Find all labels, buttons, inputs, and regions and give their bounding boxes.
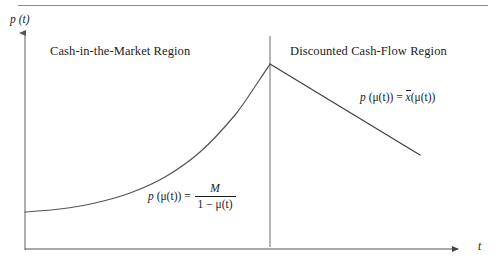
formula-discounted-cash-flow: p (μ(t)) = x(μ(t)) xyxy=(360,91,435,104)
plot-canvas xyxy=(0,0,503,274)
y-axis-label-text: p (t) xyxy=(10,13,29,25)
y-axis-label: p (t) xyxy=(10,13,29,26)
formula-left-den-mu: μ(t) xyxy=(216,198,233,210)
formula-left-denominator: 1 − μ(t) xyxy=(195,198,236,211)
formula-left-numerator: M xyxy=(195,182,236,195)
x-axis-label-text: t xyxy=(478,240,481,252)
figure-root: p (t) t Cash-in-the-Market Region Discou… xyxy=(0,0,503,274)
x-axis-label: t xyxy=(478,240,481,253)
formula-right-xbar: x xyxy=(406,91,411,104)
formula-right-arg: (μ(t)) xyxy=(369,91,394,103)
discounted-cash-flow-line xyxy=(270,64,420,155)
fraction-bar-icon xyxy=(195,196,236,197)
formula-right-rhs-arg: (μ(t)) xyxy=(411,91,436,103)
formula-cash-in-the-market: p (μ(t)) = M1 − μ(t) xyxy=(148,183,237,212)
formula-left-fraction: M1 − μ(t) xyxy=(195,182,236,211)
formula-left-den-minus: − xyxy=(206,198,213,210)
formula-left-arg: (μ(t)) xyxy=(157,190,182,202)
region-label-discounted-cash-flow: Discounted Cash-Flow Region xyxy=(290,44,447,58)
formula-left-den-one: 1 xyxy=(198,198,204,210)
region-label-cash-in-the-market: Cash-in-the-Market Region xyxy=(50,44,190,58)
